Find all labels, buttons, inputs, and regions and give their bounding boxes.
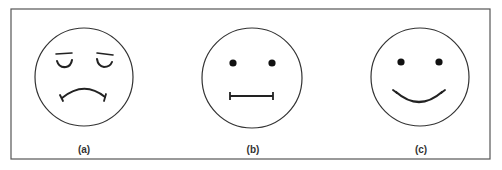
- panel-label-c: (c): [415, 144, 427, 155]
- neutral-face-outline: [202, 28, 302, 128]
- smile-mouth-icon: [393, 90, 445, 102]
- figure-frame: [11, 9, 490, 159]
- sad-right-eye-icon: [97, 53, 113, 67]
- sad-face-outline: [35, 28, 133, 126]
- panel-b: (b): [202, 28, 302, 155]
- happy-left-eye-icon: [397, 58, 404, 65]
- neutral-left-eye-icon: [229, 59, 236, 66]
- panel-a: (a): [35, 28, 133, 155]
- neutral-right-eye-icon: [268, 59, 275, 66]
- panel-label-a: (a): [78, 144, 90, 155]
- panel-label-b: (b): [247, 144, 260, 155]
- sad-left-eye-icon: [56, 53, 72, 67]
- happy-face-outline: [371, 28, 469, 126]
- panel-c: (c): [371, 28, 469, 155]
- faces-figure: (a) (b) (c): [0, 0, 502, 170]
- frown-mouth-icon: [60, 89, 106, 101]
- straight-mouth-icon: [230, 92, 273, 100]
- happy-right-eye-icon: [435, 58, 442, 65]
